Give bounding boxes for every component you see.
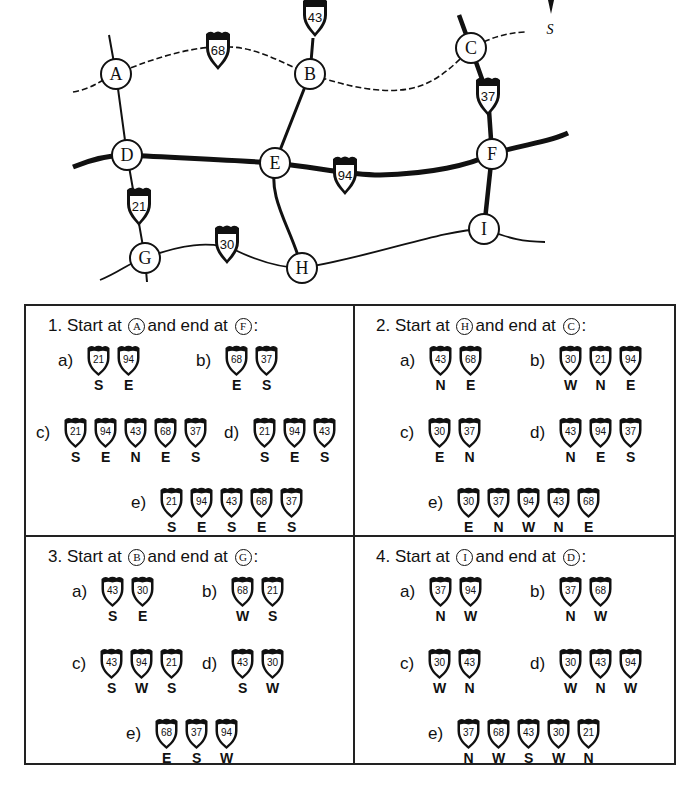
route-step: 68 E (248, 486, 275, 534)
direction-label: E (232, 378, 241, 392)
answer-option-e[interactable]: e) 21 S 94 E 43 S 68 E 37 S (131, 486, 305, 534)
route-step: 43 S (515, 717, 542, 765)
route-sequence: 30 W 43 N 94 W (557, 647, 644, 695)
answer-option-a[interactable]: a) 43 S 30 E (72, 575, 156, 623)
answer-option-c[interactable]: c) 30 E 37 N (400, 416, 483, 464)
svg-text:21: 21 (583, 727, 595, 738)
answer-option-d[interactable]: d) 43 S 30 W (202, 647, 286, 695)
interstate-shield-icon: 37 (184, 717, 209, 750)
direction-label: S (262, 378, 271, 392)
map-node-e: E (260, 148, 290, 178)
route-sequence: 43 S 30 W (229, 647, 286, 695)
map-node-h: H (287, 253, 317, 283)
question-prefix: Start at (395, 316, 450, 335)
route-sequence: 37 N 68 W 43 S 30 W 21 N (455, 717, 602, 765)
direction-label: W (220, 751, 233, 765)
answer-option-a[interactable]: a) 21 S 94 E (58, 344, 142, 392)
direction-label: S (238, 681, 247, 695)
option-label: e) (131, 493, 146, 513)
interstate-shield-icon: 21 (260, 575, 285, 608)
svg-text:F: F (487, 144, 497, 164)
route-step: 68 W (485, 717, 512, 765)
interstate-shield-icon: 94 (214, 717, 239, 750)
direction-label: E (161, 450, 170, 464)
svg-text:30: 30 (137, 585, 149, 596)
route-step: 68 E (223, 344, 250, 392)
interstate-shield-icon: 30 (558, 647, 583, 680)
direction-label: E (435, 450, 444, 464)
answer-option-a[interactable]: a) 43 N 68 E (400, 344, 484, 392)
interstate-shield-icon: 37 (279, 486, 304, 519)
route-step: 94 W (617, 647, 644, 695)
interstate-shield-icon: 21 (127, 188, 151, 227)
route-step: 68 E (457, 344, 484, 392)
answer-option-a[interactable]: a) 37 N 94 W (400, 575, 484, 623)
route-step: 21 S (158, 647, 185, 695)
svg-text:21: 21 (166, 657, 178, 668)
route-step: 37 S (253, 344, 280, 392)
map-node-c: C (456, 33, 486, 63)
route-step: 68 E (152, 416, 179, 464)
route-step: 68 E (575, 486, 602, 534)
direction-label: S (108, 609, 117, 623)
route-step: 94 E (617, 344, 644, 392)
question-suffix: : (582, 316, 587, 335)
svg-text:43: 43 (595, 657, 607, 668)
start-node-badge: A (128, 318, 145, 335)
svg-text:94: 94 (625, 354, 637, 365)
answer-option-b[interactable]: b) 68 W 21 S (202, 575, 286, 623)
interstate-shield-icon: 21 (588, 344, 613, 377)
direction-label: S (287, 520, 296, 534)
answer-option-e[interactable]: e) 37 N 68 W 43 S 30 W 21 N (428, 717, 602, 765)
answer-option-e[interactable]: e) 68 E 37 S 94 W (126, 717, 240, 765)
svg-text:43: 43 (319, 426, 331, 437)
answer-option-c[interactable]: c) 30 W 43 N (400, 647, 483, 695)
route-step: 21 S (158, 486, 185, 534)
answer-option-c[interactable]: c) 21 S 94 E 43 N 68 E 37 S (36, 416, 209, 464)
svg-text:37: 37 (481, 89, 495, 104)
interstate-shield-icon: 37 (486, 486, 511, 519)
route-sequence: 68 W 21 S (229, 575, 286, 623)
svg-text:68: 68 (211, 43, 225, 58)
svg-text:94: 94 (625, 657, 637, 668)
answer-option-c[interactable]: c) 43 S 94 W 21 S (72, 647, 185, 695)
question-title: 1. Start at Aand end at F: (48, 316, 258, 336)
svg-text:21: 21 (93, 354, 105, 365)
answer-option-e[interactable]: e) 30 E 37 N 94 W 43 N 68 E (428, 486, 602, 534)
route-step: 21 S (85, 344, 112, 392)
interstate-shield-icon: 94 (333, 157, 357, 196)
svg-text:37: 37 (464, 426, 476, 437)
interstate-shield-icon: 68 (153, 416, 178, 449)
interstate-shield-icon: 43 (312, 416, 337, 449)
answer-option-b[interactable]: b) 68 E 37 S (196, 344, 280, 392)
svg-text:68: 68 (493, 727, 505, 738)
interstate-shield-icon: 68 (154, 717, 179, 750)
interstate-shield-icon: 68 (458, 344, 483, 377)
direction-label: W (236, 609, 249, 623)
interstate-shield-icon: 68 (588, 575, 613, 608)
svg-text:68: 68 (237, 585, 249, 596)
direction-label: S (626, 450, 635, 464)
interstate-shield-icon: 68 (230, 575, 255, 608)
option-label: e) (428, 493, 443, 513)
end-node-badge: D (563, 549, 580, 566)
direction-label: S (107, 681, 116, 695)
route-sequence: 43 N 94 E 37 S (557, 416, 644, 464)
svg-text:C: C (465, 38, 477, 58)
question-suffix: : (254, 316, 259, 335)
answer-option-d[interactable]: d) 30 W 43 N 94 W (530, 647, 644, 695)
direction-label: N (465, 450, 475, 464)
answer-option-b[interactable]: b) 37 N 68 W (530, 575, 614, 623)
interstate-shield-icon: 37 (558, 575, 583, 608)
svg-text:94: 94 (595, 426, 607, 437)
answer-option-d[interactable]: d) 43 N 94 E 37 S (530, 416, 644, 464)
svg-text:30: 30 (463, 496, 475, 507)
answer-option-b[interactable]: b) 30 W 21 N 94 E (530, 344, 644, 392)
route-step: 30 W (426, 647, 453, 695)
interstate-shield-icon: 37 (476, 78, 500, 117)
interstate-shield-icon: 21 (86, 344, 111, 377)
question-middle: and end at (475, 547, 555, 566)
answer-option-d[interactable]: d) 21 S 94 E 43 S (224, 416, 338, 464)
svg-text:37: 37 (190, 426, 202, 437)
direction-label: W (433, 681, 446, 695)
